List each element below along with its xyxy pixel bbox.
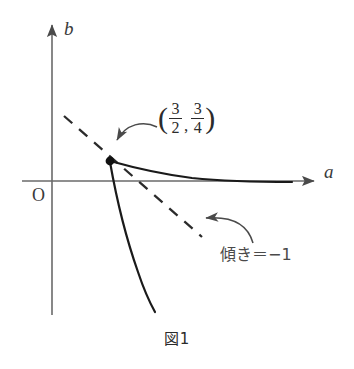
slope-callout-arrow <box>206 218 253 243</box>
figure-container: b a O ( 3 2 , 3 4 ) 傾き＝−1 図1 <box>0 0 354 369</box>
figure-caption: 図1 <box>0 327 354 348</box>
y-denominator: 4 <box>192 119 204 136</box>
b-axis-label: b <box>64 18 74 39</box>
figure-canvas: b a O <box>0 0 354 369</box>
open-paren: ( <box>158 103 168 133</box>
close-paren: ) <box>205 103 215 133</box>
a-axis-label: a <box>324 161 334 182</box>
coordinate-label: ( 3 2 , 3 4 ) <box>158 101 215 136</box>
y-coordinate-fraction: 3 4 <box>191 101 204 136</box>
x-coordinate-fraction: 3 2 <box>169 101 182 136</box>
x-denominator: 2 <box>170 119 182 136</box>
y-numerator: 3 <box>192 101 204 118</box>
coord-callout-arrow <box>117 124 157 140</box>
coordinate-comma: , <box>183 117 190 134</box>
curve-upper-branch <box>110 161 292 182</box>
tangent-point-dot <box>106 157 115 166</box>
origin-label: O <box>32 185 45 205</box>
curve-lower-branch <box>110 162 155 312</box>
slope-annotation-label: 傾き＝−1 <box>220 241 292 265</box>
x-numerator: 3 <box>170 101 182 118</box>
